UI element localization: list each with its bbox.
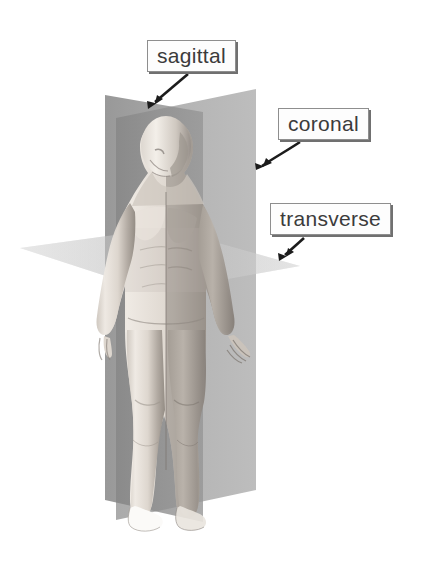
- label-coronal: coronal: [278, 108, 369, 140]
- arrow-sagittal: [147, 74, 188, 109]
- label-sagittal-text: sagittal: [157, 44, 226, 67]
- label-sagittal: sagittal: [147, 40, 236, 72]
- label-transverse-text: transverse: [280, 207, 381, 230]
- label-coronal-text: coronal: [288, 112, 359, 135]
- label-transverse: transverse: [270, 203, 391, 235]
- arrow-coronal: [255, 142, 300, 170]
- anatomy-illustration: [0, 0, 438, 562]
- arrow-transverse: [278, 238, 304, 261]
- body-planes-diagram: sagittal coronal transverse: [0, 0, 438, 562]
